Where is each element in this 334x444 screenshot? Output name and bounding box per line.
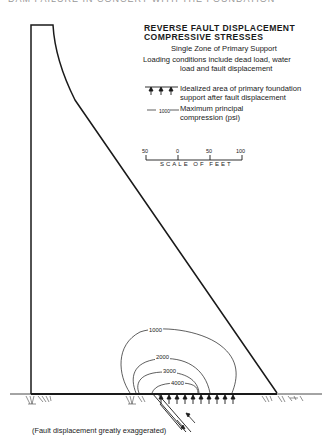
title-line-2: COMPRESSIVE STRESSES (144, 33, 295, 42)
contour-label-1000: 1000 (148, 327, 163, 333)
scale-tick-label: 100 (236, 148, 245, 154)
dam-outline (31, 25, 277, 394)
foundation-hatch-mid (126, 396, 145, 404)
legend-contour-sample-value: 1000 (159, 108, 170, 114)
loading-conditions: Loading conditions include dead load, wa… (143, 55, 334, 73)
legend-support-line-2: support after fault displacement (180, 93, 301, 102)
scale-tick-label: 50 (206, 148, 212, 154)
foundation-hatch-right (262, 396, 303, 402)
legend-contour-text: Maximum principal compression (psi) (180, 104, 243, 122)
legend-support-text: Idealized area of primary foundation sup… (180, 84, 301, 102)
foundation-hatch-left (26, 396, 51, 404)
legend-support-symbol (145, 87, 178, 95)
diagram-title: REVERSE FAULT DISPLACEMENT COMPRESSIVE S… (144, 24, 295, 42)
contour-label-2000: 2000 (155, 354, 170, 360)
scale-tick-label: 0 (176, 148, 179, 154)
fault-note: (Fault displacement greatly exaggerated) (32, 426, 166, 435)
foundation-support-arrows (159, 395, 235, 404)
legend-contour-line-2: compression (psi) (180, 113, 243, 122)
legend-contour-line-1: Maximum principal (180, 104, 243, 113)
contour-label-3000: 3000 (162, 368, 177, 374)
scale-bar (146, 155, 242, 160)
contour-3000 (138, 372, 199, 393)
loading-line-1: Loading conditions include dead load, wa… (143, 55, 291, 64)
scale-title: SCALE OF FEET (160, 161, 233, 167)
diagram-subtitle: Single Zone of Primary Support (171, 44, 277, 53)
scale-tick-label: 50 (142, 148, 148, 154)
legend-support-line-1: Idealized area of primary foundation (180, 84, 301, 93)
contour-label-4000: 4000 (170, 380, 185, 386)
loading-line-2: load and fault displacement (143, 64, 334, 73)
